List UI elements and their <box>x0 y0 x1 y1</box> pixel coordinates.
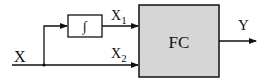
input-label-x: X <box>14 48 26 65</box>
output-label-y: Y <box>238 17 249 33</box>
x1-label: X1 <box>111 8 127 26</box>
branch-line-to-integrator <box>44 26 67 65</box>
diagram-svg: ∫ FC X X1 X2 Y <box>0 0 267 82</box>
x2-label: X2 <box>111 46 127 64</box>
block-diagram: ∫ FC X X1 X2 Y <box>0 0 267 82</box>
fc-block-label: FC <box>169 33 190 52</box>
